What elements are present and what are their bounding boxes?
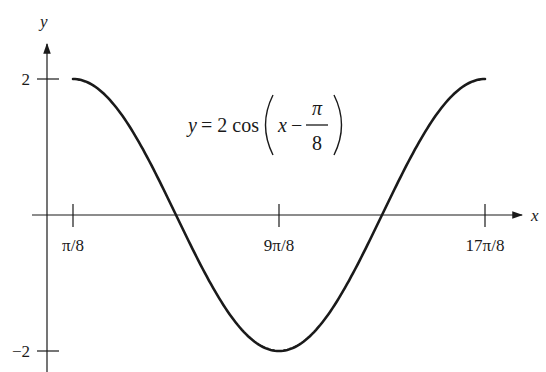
- equation-label: y = 2 cos x − π 8: [186, 95, 342, 155]
- equation-lhs: = 2 cos: [201, 114, 259, 136]
- x-tick-label-17pi-8: 17π/8: [466, 236, 505, 255]
- equation-minus: −: [291, 114, 302, 136]
- x-tick-label-9pi-8: 9π/8: [264, 236, 294, 255]
- equation-inner-var: x: [277, 114, 287, 136]
- right-paren: [334, 95, 342, 155]
- equation-frac-num: π: [312, 97, 323, 119]
- y-tick-label-neg2: −2: [12, 342, 30, 361]
- y-axis-label: y: [38, 12, 48, 31]
- equation-lhs-y: y: [186, 114, 197, 137]
- x-tick-label-pi-8: π/8: [62, 236, 84, 255]
- cosine-chart: y x 2 −2 π/8 9π/8 17π/8 y = 2 cos x − π …: [0, 0, 546, 372]
- y-tick-label-2: 2: [22, 70, 31, 89]
- x-axis-label: x: [530, 206, 539, 225]
- equation-frac-den: 8: [312, 132, 322, 154]
- left-paren: [266, 95, 274, 155]
